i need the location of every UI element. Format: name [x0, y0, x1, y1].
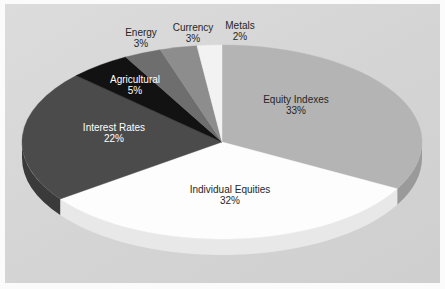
pie-slice-label: Interest Rates22%: [54, 122, 174, 144]
pie-slice-label-value: 32%: [170, 195, 290, 206]
pie-chart: Equity Indexes33%Individual Equities32%I…: [0, 0, 445, 289]
pie-slice-label: Agricultural5%: [75, 74, 195, 96]
pie-slice-label: Equity Indexes33%: [236, 94, 356, 116]
pie-slice-label-value: 33%: [236, 105, 356, 116]
pie-slice-label-value: 2%: [180, 31, 300, 42]
pie-slice-label-name: Metals: [180, 20, 300, 31]
pie-slice-label-name: Individual Equities: [170, 184, 290, 195]
pie-slice-label-name: Equity Indexes: [236, 94, 356, 105]
pie-chart-screenshot: Equity Indexes33%Individual Equities32%I…: [0, 0, 445, 289]
pie-slice-label-name: Agricultural: [75, 74, 195, 85]
pie-slice-label-name: Interest Rates: [54, 122, 174, 133]
pie-slice-label-value: 5%: [75, 85, 195, 96]
pie-slice-label-value: 22%: [54, 133, 174, 144]
pie-slice-label: Metals2%: [180, 20, 300, 42]
pie-slice-label: Individual Equities32%: [170, 184, 290, 206]
